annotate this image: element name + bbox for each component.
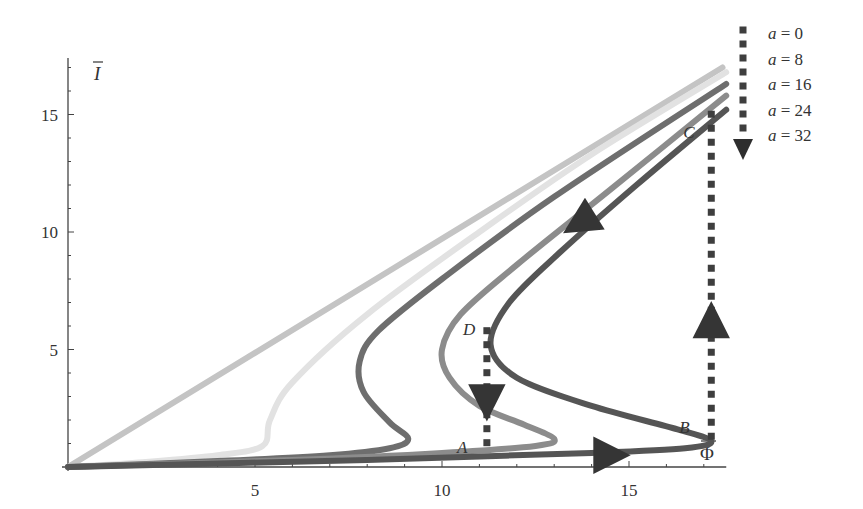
x-tick-label: 10 — [434, 481, 451, 500]
legend-item: a = 32 — [768, 126, 812, 145]
svg-text:I: I — [93, 63, 102, 84]
y-tick-label: 10 — [41, 223, 58, 242]
legend-item: a = 0 — [768, 24, 803, 43]
legend-arrow-dot — [740, 83, 747, 90]
point-label-c: C — [683, 123, 695, 142]
x-tick-label: 5 — [251, 481, 260, 500]
legend-arrow-dot — [740, 111, 747, 118]
bifurcation-chart: 5101551015IΦ ABCD a = 0a = 8a = 16a = 24… — [0, 0, 863, 509]
y-tick-label: 15 — [41, 106, 58, 125]
jump-B-C — [708, 111, 715, 440]
curve-a0 — [68, 68, 723, 468]
point-label-d: D — [462, 320, 476, 339]
point-label-a: A — [456, 438, 468, 457]
legend-item: a = 24 — [768, 101, 812, 120]
y-tick-label: 5 — [50, 341, 59, 360]
legend: a = 0a = 8a = 16a = 24a = 32 — [733, 24, 812, 160]
point-label-b: B — [679, 418, 690, 437]
legend-arrow-down-icon — [733, 139, 753, 160]
legend-arrow-dot — [740, 55, 747, 62]
legend-arrow-dot — [740, 97, 747, 104]
legend-item: a = 8 — [768, 50, 803, 69]
legend-arrow-dot — [740, 69, 747, 76]
flow-arrow-right-icon — [593, 437, 630, 474]
hysteresis-overlay: ABCD — [456, 111, 730, 474]
curves — [68, 68, 726, 468]
axes: 5101551015IΦ — [41, 58, 726, 500]
legend-arrow-dot — [740, 27, 747, 34]
y-axis-title: I — [93, 62, 103, 84]
x-tick-label: 15 — [621, 481, 638, 500]
jump-arrow-up-icon — [693, 301, 730, 338]
legend-arrow-dot — [740, 41, 747, 48]
legend-item: a = 16 — [768, 75, 812, 94]
legend-arrow-dot — [740, 125, 747, 132]
